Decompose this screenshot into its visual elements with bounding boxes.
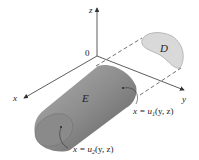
diagram-canvas: z y x 0 E D x = u1(y, z) x = u2(y, z)	[0, 0, 199, 160]
point-u1	[122, 87, 124, 89]
z-axis-label: z	[88, 5, 93, 15]
y-axis-label: y	[181, 94, 186, 104]
surface-u2-label: x = u2(y, z)	[72, 144, 113, 155]
projection-line-bottom	[140, 68, 181, 95]
x-axis-label: x	[12, 93, 17, 103]
point-u2	[60, 126, 62, 128]
region-e-label: E	[81, 92, 89, 104]
region-d-label: D	[159, 42, 168, 54]
projection-line-top	[96, 38, 142, 66]
origin-label: 0	[85, 48, 90, 58]
surface-u1-label: x = u1(y, z)	[132, 106, 173, 117]
